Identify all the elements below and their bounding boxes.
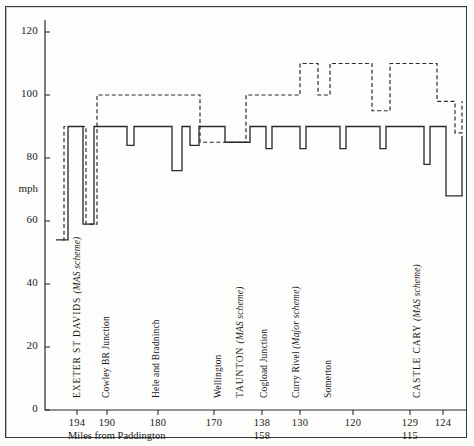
y-tick-label: 0 (2, 402, 38, 414)
x-tick-label: 138 (254, 417, 270, 428)
x-tick-label: 170 (206, 417, 222, 428)
series-line-1 (60, 127, 462, 240)
station-label: TAUNTON (MAS scheme) (235, 287, 245, 399)
station-label: Hele and Bradninch (151, 319, 161, 398)
x-tick-label: 129 (402, 417, 418, 428)
station-name: Somerton (323, 360, 333, 398)
station-name: EXETER ST DAVIDS (72, 294, 82, 398)
x-tick-label-secondary: 115 (402, 430, 418, 441)
station-name: Hele and Bradninch (151, 319, 161, 398)
x-axis-title: Miles from Paddington (68, 430, 165, 441)
y-tick-label: 100 (2, 87, 38, 99)
x-tick-label: 130 (292, 417, 308, 428)
station-name: TAUNTON (235, 343, 245, 398)
y-tick-label: 20 (2, 339, 38, 351)
station-label: Curry Rivel (Major scheme) (291, 286, 301, 398)
station-scheme-note: (MAS scheme) (235, 287, 245, 344)
station-label: Wellington (213, 355, 223, 398)
x-tick-label: 120 (345, 417, 361, 428)
x-tick-label: 124 (435, 417, 451, 428)
plot-area: 020406080100120mph 194190180170138158130… (0, 0, 474, 446)
x-tick-label: 180 (150, 417, 166, 428)
station-name: Cowley BR Junction (101, 316, 111, 398)
station-name: Wellington (213, 355, 223, 398)
x-tick-label: 194 (69, 417, 85, 428)
y-tick-label: 120 (2, 24, 38, 36)
station-label: CASTLE CARY (MAS scheme) (412, 264, 422, 398)
station-scheme-note: (Major scheme) (291, 286, 301, 349)
station-label: Cogload Junction (259, 329, 269, 398)
series-group (56, 64, 462, 240)
y-tick-label: 80 (2, 150, 38, 162)
series-line-2 (56, 64, 462, 240)
x-tick-label-secondary: 158 (254, 430, 270, 441)
y-tick-label: 60 (2, 213, 38, 225)
station-label: Somerton (323, 360, 333, 398)
station-label: Cowley BR Junction (101, 316, 111, 398)
station-name: Curry Rivel (291, 349, 301, 398)
chart-figure: 020406080100120mph 194190180170138158130… (0, 0, 474, 446)
station-scheme-note: (MAS scheme) (412, 264, 422, 321)
station-name: CASTLE CARY (412, 321, 422, 398)
station-scheme-note: (MAS scheme) (72, 237, 82, 294)
y-tick-label: 40 (2, 276, 38, 288)
station-name: Cogload Junction (259, 329, 269, 398)
x-tick-label: 190 (99, 417, 115, 428)
station-label: EXETER ST DAVIDS (MAS scheme) (72, 237, 82, 398)
y-axis-title: mph (2, 182, 38, 194)
